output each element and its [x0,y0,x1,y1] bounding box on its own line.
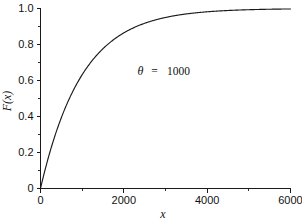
y-tick-label: 0.8 [18,38,33,50]
y-axis-title-text: F(x) [0,91,14,113]
y-tick-label: 0.2 [18,146,33,158]
y-axis-title: F(x) [0,91,14,113]
exponential-cdf-plot: 00.20.40.60.81.0 0200040006000 F(x) x θ … [0,0,302,223]
x-tick-label: 2000 [112,194,136,206]
x-tick-label: 6000 [278,194,302,206]
equals-sign: = [151,65,158,77]
y-tick-label: 0.4 [18,110,33,122]
x-tick-label: 4000 [195,194,219,206]
y-tick-label: 0 [27,182,33,194]
theta-value: 1000 [167,65,190,77]
theta-symbol: θ [138,64,144,78]
chart-background [0,0,302,223]
chart-figure: 00.20.40.60.81.0 0200040006000 F(x) x θ … [0,0,302,223]
y-tick-label: 0.6 [18,74,33,86]
x-axis-title-text: x [159,207,166,221]
x-tick-label: 0 [37,194,43,206]
y-tick-label: 1.0 [18,2,33,14]
